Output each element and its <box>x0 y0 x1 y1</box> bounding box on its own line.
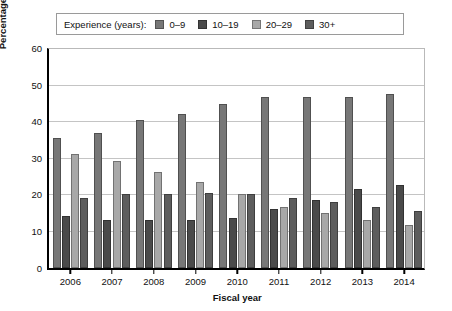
bar-group <box>300 48 342 268</box>
bar[interactable] <box>154 172 162 267</box>
x-tick-label: 2007 <box>91 276 133 290</box>
bar[interactable] <box>363 220 371 268</box>
legend-label-0-9: 0–9 <box>169 19 185 30</box>
bar-group <box>133 48 175 268</box>
y-tick-label: 10 <box>2 225 42 236</box>
bar-group <box>383 48 425 268</box>
x-tick-mark <box>403 270 404 274</box>
bar[interactable] <box>396 185 404 267</box>
bar[interactable] <box>113 161 121 267</box>
bar[interactable] <box>414 211 422 268</box>
bar[interactable] <box>219 104 227 268</box>
bar[interactable] <box>289 198 297 268</box>
y-axis-title: Percentage of total civilian workforce <box>0 0 10 76</box>
y-tick-label: 30 <box>2 152 42 163</box>
x-tick-mark <box>362 270 363 274</box>
legend-item-20-29[interactable]: 20–29 <box>252 19 292 30</box>
x-tick-label: 2006 <box>50 276 92 290</box>
bar[interactable] <box>136 120 144 267</box>
bar[interactable] <box>229 218 237 267</box>
legend-item-10-19[interactable]: 10–19 <box>198 19 238 30</box>
bar[interactable] <box>312 200 320 268</box>
legend-label-10-19: 10–19 <box>212 19 238 30</box>
bar[interactable] <box>270 209 278 268</box>
bar[interactable] <box>405 225 413 267</box>
bar[interactable] <box>62 216 70 267</box>
bar[interactable] <box>103 220 111 268</box>
bar-group <box>216 48 258 268</box>
y-axis-title-text: Percentage of total civilian workforce <box>0 0 10 76</box>
y-tick-label: 50 <box>2 79 42 90</box>
legend-swatch-0-9 <box>155 20 164 29</box>
x-tick-mark <box>111 270 112 274</box>
x-tick-label: 2012 <box>300 276 342 290</box>
x-tick-label: 2011 <box>258 276 300 290</box>
x-tick-mark <box>237 270 238 274</box>
bar[interactable] <box>247 194 255 267</box>
legend-label-30-plus: 30+ <box>319 19 335 30</box>
legend-title: Experience (years): <box>64 19 146 30</box>
x-tick-mark <box>70 270 71 274</box>
x-tick-label: 2013 <box>342 276 384 290</box>
bar[interactable] <box>330 202 338 268</box>
bar[interactable] <box>53 138 61 268</box>
bar-group <box>91 48 133 268</box>
bar[interactable] <box>386 94 394 268</box>
chart-legend: Experience (years): 0–9 10–19 20–29 30+ <box>56 13 404 35</box>
bar[interactable] <box>280 207 288 267</box>
bar[interactable] <box>145 220 153 268</box>
y-tick-label: 0 <box>2 262 42 273</box>
x-tick-label: 2010 <box>216 276 258 290</box>
y-tick-label: 40 <box>2 116 42 127</box>
bar[interactable] <box>321 213 329 268</box>
x-tick-mark <box>153 270 154 274</box>
bar[interactable] <box>122 194 130 267</box>
y-tick-label: 20 <box>2 189 42 200</box>
bar[interactable] <box>303 97 311 268</box>
legend-item-30-plus[interactable]: 30+ <box>305 19 335 30</box>
legend-item-0-9[interactable]: 0–9 <box>155 19 185 30</box>
bar[interactable] <box>372 207 380 267</box>
bar-group <box>50 48 92 268</box>
x-tick-label: 2008 <box>133 276 175 290</box>
legend-label-20-29: 20–29 <box>266 19 292 30</box>
chart-container: Experience (years): 0–9 10–19 20–29 30+ … <box>0 0 452 311</box>
bar[interactable] <box>178 114 186 268</box>
x-tick-mark <box>195 270 196 274</box>
legend-swatch-10-19 <box>198 20 207 29</box>
bar[interactable] <box>80 198 88 268</box>
bar[interactable] <box>238 194 246 267</box>
legend-swatch-30-plus <box>305 20 314 29</box>
bar[interactable] <box>94 133 102 267</box>
x-axis-title: Fiscal year <box>50 292 426 303</box>
y-tick-label: 60 <box>2 43 42 54</box>
x-tick-label: 2009 <box>175 276 217 290</box>
x-tick-mark <box>278 270 279 274</box>
bar[interactable] <box>354 189 362 268</box>
bar[interactable] <box>187 220 195 268</box>
bar[interactable] <box>261 97 269 267</box>
x-tick-mark <box>320 270 321 274</box>
bar-group <box>258 48 300 268</box>
bar[interactable] <box>196 182 204 268</box>
legend-swatch-20-29 <box>252 20 261 29</box>
x-tick-label: 2014 <box>383 276 425 290</box>
bar[interactable] <box>164 194 172 267</box>
bar-group <box>342 48 384 268</box>
bar[interactable] <box>345 97 353 268</box>
x-axis-labels: 200620072008200920102011201220132014 <box>50 276 426 290</box>
bar[interactable] <box>205 193 213 268</box>
bar-groups <box>50 48 426 268</box>
bar[interactable] <box>71 154 79 267</box>
bar-group <box>175 48 217 268</box>
